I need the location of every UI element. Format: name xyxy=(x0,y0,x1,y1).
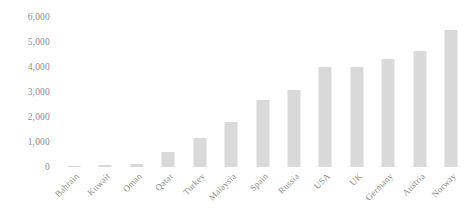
bar[interactable] xyxy=(193,138,206,167)
x-axis-tick-label: Spain xyxy=(247,171,269,193)
bar[interactable] xyxy=(256,100,269,168)
y-axis-tick-label: 5,000 xyxy=(28,37,50,47)
x-axis-tick-label: Norway xyxy=(430,171,458,199)
x-axis-tick-label: Qatar xyxy=(153,171,175,193)
x-axis-tick: USA xyxy=(311,167,339,220)
x-axis-tick: Oman xyxy=(123,167,151,220)
x-axis-tick: Malaysia xyxy=(217,167,245,220)
x-axis-tick: Austria xyxy=(406,167,434,220)
y-axis-tick-label: 3,000 xyxy=(28,87,50,97)
plot-area: BahrainKuwaitOmanQatarTurkeyMalaysiaSpai… xyxy=(56,0,465,220)
x-axis-tick-label: Bahrain xyxy=(53,171,81,199)
x-axis-tick-label: Russia xyxy=(276,171,301,196)
bar-chart: 01,0002,0003,0004,0005,0006,000 BahrainK… xyxy=(0,0,465,220)
x-axis-tick-label: Turkey xyxy=(181,171,207,197)
x-axis-tick: Qatar xyxy=(154,167,182,220)
x-axis-tick: Kuwait xyxy=(91,167,119,220)
x-axis-tick-label: USA xyxy=(312,171,332,191)
y-axis-tick-label: 6,000 xyxy=(28,12,50,22)
x-axis-tick: Norway xyxy=(437,167,465,220)
x-axis-tick: Spain xyxy=(249,167,277,220)
bar[interactable] xyxy=(350,67,363,167)
y-axis-tick-label: 2,000 xyxy=(28,112,50,122)
y-axis: 01,0002,0003,0004,0005,0006,000 xyxy=(0,0,56,220)
bar[interactable] xyxy=(287,90,300,167)
x-axis-tick-label: Oman xyxy=(121,171,144,194)
bar[interactable] xyxy=(445,30,458,168)
x-axis-tick-label: UK xyxy=(347,171,364,188)
x-axis-tick: Russia xyxy=(280,167,308,220)
x-axis-tick: Bahrain xyxy=(60,167,88,220)
y-axis-tick-label: 4,000 xyxy=(28,62,50,72)
bar[interactable] xyxy=(382,59,395,167)
x-axis-tick: Germany xyxy=(374,167,402,220)
bar[interactable] xyxy=(162,152,175,167)
bar[interactable] xyxy=(225,122,238,167)
x-axis-tick-label: Kuwait xyxy=(86,171,113,198)
bar[interactable] xyxy=(319,67,332,167)
x-axis-tick-label: Austria xyxy=(400,171,427,198)
y-axis-tick-label: 0 xyxy=(45,162,50,172)
bar[interactable] xyxy=(413,51,426,167)
y-axis-tick-label: 1,000 xyxy=(28,137,50,147)
